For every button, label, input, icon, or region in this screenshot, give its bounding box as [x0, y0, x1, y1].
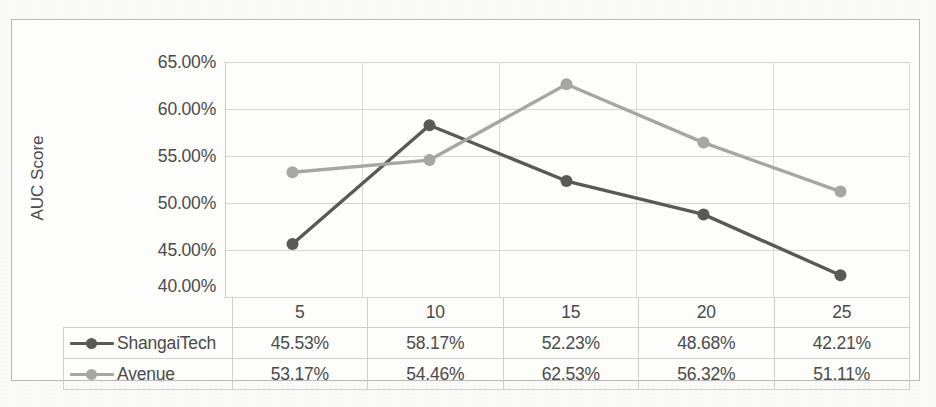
table-cell: 48.68%: [639, 328, 775, 359]
table-cell: 62.53%: [503, 359, 639, 390]
table-cell: 42.21%: [774, 328, 910, 359]
gridline-vertical: [909, 62, 910, 298]
data-table: 5 10 15 20 25 ShangaiTech 45.53%: [63, 297, 910, 390]
table-cell: 58.17%: [368, 328, 504, 359]
plot-axis-line: [225, 62, 226, 298]
gridline-horizontal: [225, 156, 910, 157]
gridline-horizontal: [225, 203, 910, 204]
table-cell: 51.11%: [774, 359, 910, 390]
gridline-vertical: [773, 62, 774, 298]
y-tick-label: 55.00%: [120, 146, 216, 167]
table-row: ShangaiTech 45.53% 58.17% 52.23% 48.68% …: [64, 328, 910, 359]
gridline-horizontal: [225, 62, 910, 63]
table-row: Avenue 53.17% 54.46% 62.53% 56.32% 51.11…: [64, 359, 910, 390]
y-tick-label: 65.00%: [120, 52, 216, 73]
legend-item-shangaitech[interactable]: ShangaiTech: [64, 328, 233, 359]
table-corner-cell: [64, 297, 233, 328]
table-cell: 52.23%: [503, 328, 639, 359]
column-header: 25: [774, 297, 910, 328]
y-axis-title: AUC Score: [28, 118, 48, 238]
column-header: 20: [639, 297, 775, 328]
gridline-vertical: [636, 62, 637, 298]
column-header: 15: [503, 297, 639, 328]
legend-label: ShangaiTech: [117, 333, 216, 354]
y-tick-label: 45.00%: [120, 240, 216, 261]
gridline-horizontal: [225, 250, 910, 251]
legend-item-avenue[interactable]: Avenue: [64, 359, 233, 390]
column-header: 10: [368, 297, 504, 328]
gridline-vertical: [362, 62, 363, 298]
legend-marker-icon: [70, 336, 114, 350]
table-cell: 54.46%: [368, 359, 504, 390]
column-header: 5: [232, 297, 368, 328]
y-tick-label: 40.00%: [120, 276, 216, 297]
chart-frame: AUC Score 65.00% 60.00% 55.00% 50.00% 45…: [11, 19, 920, 381]
legend-label: Avenue: [117, 364, 175, 385]
gridline-vertical: [499, 62, 500, 298]
table-cell: 56.32%: [639, 359, 775, 390]
gridline-horizontal: [225, 109, 910, 110]
table-cell: 45.53%: [232, 328, 368, 359]
table-header-row: 5 10 15 20 25: [64, 297, 910, 328]
y-tick-label: 50.00%: [120, 193, 216, 214]
chart-screenshot: AUC Score 65.00% 60.00% 55.00% 50.00% 45…: [0, 0, 936, 407]
y-tick-label: 60.00%: [120, 99, 216, 120]
table-cell: 53.17%: [232, 359, 368, 390]
legend-marker-icon: [70, 367, 114, 381]
